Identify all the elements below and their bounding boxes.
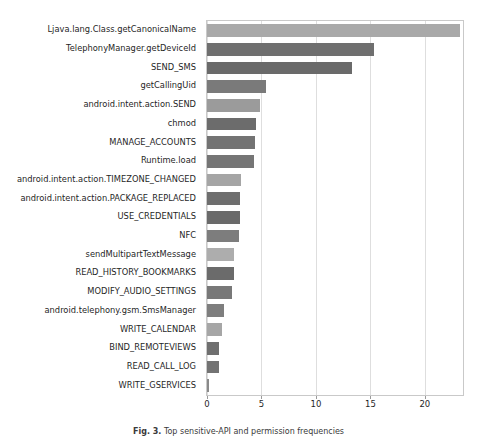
bar-row	[207, 339, 463, 358]
y-tick-label: READ_HISTORY_BOOKMARKS	[0, 268, 200, 277]
y-tick-label: WRITE_GSERVICES	[0, 381, 200, 390]
bar-row	[207, 208, 463, 227]
y-tick-label: MANAGE_ACCOUNTS	[0, 138, 200, 147]
y-tick-label: android.telephony.gsm.SmsManager	[0, 306, 200, 315]
y-tick-label: TelephonyManager.getDeviceId	[0, 44, 200, 53]
bar-row	[207, 320, 463, 339]
bar	[207, 24, 460, 37]
y-tick-label: android.intent.action.SEND	[0, 100, 200, 109]
y-tick-label: Ljava.lang.Class.getCanonicalName	[0, 25, 200, 34]
bar	[207, 379, 209, 392]
bars-layer	[207, 21, 463, 395]
x-axis-tick-labels: 05101520	[0, 399, 477, 413]
x-tick-label-20: 20	[419, 399, 430, 410]
bar-row	[207, 96, 463, 115]
bar	[207, 155, 254, 168]
bar-row	[207, 264, 463, 283]
bar-row	[207, 301, 463, 320]
y-tick-label: READ_CALL_LOG	[0, 362, 200, 371]
y-tick-label: SEND_SMS	[0, 63, 200, 72]
figure-container: Ljava.lang.Class.getCanonicalNameTelepho…	[0, 0, 477, 438]
bar-row	[207, 40, 463, 59]
bar-row	[207, 77, 463, 96]
bar	[207, 80, 266, 93]
y-tick-label: getCallingUid	[0, 81, 200, 90]
bar-row	[207, 58, 463, 77]
y-tick-label: android.intent.action.PACKAGE_REPLACED	[0, 194, 200, 203]
bar	[207, 342, 219, 355]
bar	[207, 192, 240, 205]
bar	[207, 99, 260, 112]
bar-row	[207, 227, 463, 246]
bar	[207, 136, 255, 149]
bar	[207, 230, 239, 243]
bar	[207, 304, 224, 317]
x-tick-label-10: 10	[311, 399, 322, 410]
y-tick-label: BIND_REMOTEVIEWS	[0, 343, 200, 352]
y-tick-label: sendMultipartTextMessage	[0, 250, 200, 259]
y-tick-label: USE_CREDENTIALS	[0, 212, 200, 221]
caption-text: Top sensitive-API and permission frequen…	[164, 427, 344, 436]
bar-row	[207, 189, 463, 208]
y-tick-label: Runtime.load	[0, 156, 200, 165]
x-tick-label-0: 0	[204, 399, 209, 410]
bar-row	[207, 152, 463, 171]
bar-row	[207, 114, 463, 133]
bar	[207, 361, 219, 374]
bar	[207, 43, 374, 56]
bar-row	[207, 133, 463, 152]
y-tick-label: chmod	[0, 119, 200, 128]
bar-row	[207, 21, 463, 40]
bar	[207, 267, 234, 280]
bar-row	[207, 357, 463, 376]
bar	[207, 118, 256, 131]
y-axis-tick-labels: Ljava.lang.Class.getCanonicalNameTelepho…	[0, 21, 200, 395]
bar	[207, 286, 232, 299]
x-tick-label-5: 5	[259, 399, 264, 410]
y-tick-label: MODIFY_AUDIO_SETTINGS	[0, 287, 200, 296]
caption-label: Fig. 3.	[133, 427, 161, 436]
bar	[207, 248, 234, 261]
bar-row	[207, 245, 463, 264]
bar	[207, 323, 222, 336]
y-tick-label: NFC	[0, 231, 200, 240]
bar	[207, 211, 240, 224]
y-tick-label: WRITE_CALENDAR	[0, 325, 200, 334]
bar	[207, 62, 352, 75]
y-tick-label: android.intent.action.TIMEZONE_CHANGED	[0, 175, 200, 184]
x-tick-label-15: 15	[365, 399, 376, 410]
bar-row	[207, 171, 463, 190]
bar	[207, 174, 241, 187]
figure-caption: Fig. 3. Top sensitive-API and permission…	[0, 427, 477, 438]
bar-row	[207, 376, 463, 395]
bar-row	[207, 283, 463, 302]
